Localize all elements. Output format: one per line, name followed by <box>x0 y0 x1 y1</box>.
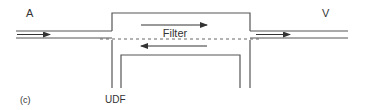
outlet-label: V <box>322 7 330 19</box>
dialysate-channel <box>121 55 240 88</box>
filter-label: Filter <box>163 27 188 39</box>
panel-label: (c) <box>20 95 31 105</box>
ultrafiltration-diagram: A V Filter (c) UDF <box>0 0 365 110</box>
filter-housing <box>112 13 250 88</box>
device-label: UDF <box>105 94 126 105</box>
inlet-label: A <box>26 7 34 19</box>
